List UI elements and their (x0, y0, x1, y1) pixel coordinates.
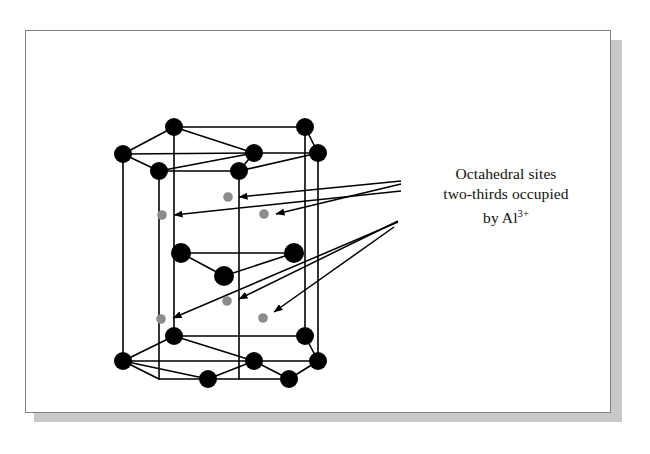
annotation-caption: Octahedral sites two-thirds occupied by … (398, 164, 614, 228)
cell-edge-bottom-center-b (174, 336, 254, 361)
cell-edge-top-center-a (123, 153, 254, 154)
oxygen-atom (171, 243, 191, 263)
oxygen-atom (165, 118, 183, 136)
octahedral-site-atom (259, 209, 269, 219)
oxygen-atom (245, 352, 263, 370)
oxygen-atom (296, 118, 314, 136)
octahedral-site-atom (223, 192, 233, 202)
oxygen-atom (309, 144, 327, 162)
caption-line-3: by Al3+ (398, 204, 614, 228)
octahedral-site-atom (156, 314, 166, 324)
figure-frame: Octahedral sites two-thirds occupied by … (25, 30, 611, 413)
caption-line-2: two-thirds occupied (398, 184, 614, 204)
oxygen-atom (150, 162, 168, 180)
octahedral-site-atom (258, 313, 268, 323)
oxygen-atom (284, 243, 304, 263)
figure-page: Octahedral sites two-thirds occupied by … (0, 0, 650, 454)
charge-superscript: 3+ (518, 208, 529, 219)
caption-line-1: Octahedral sites (398, 164, 614, 184)
cell-edge-top-center-b (174, 127, 254, 153)
caption-line-3-text: by Al (483, 209, 518, 226)
oxygen-atom (114, 352, 132, 370)
oxygen-atom (280, 370, 298, 388)
bond-mid-center-right (224, 253, 294, 276)
leader-to-site-top-center (239, 181, 401, 197)
leader-to-site-upper-right (276, 184, 401, 214)
oxygen-atom (114, 145, 132, 163)
oxygen-atom (230, 162, 248, 180)
leader-to-site-lower-right (274, 227, 394, 312)
oxygen-atom (245, 144, 263, 162)
octahedral-site-atom (222, 296, 232, 306)
oxygen-atom (165, 327, 183, 345)
oxygen-atom (296, 327, 314, 345)
oxygen-atom (199, 370, 217, 388)
oxygen-atom (309, 352, 327, 370)
cell-edge-bottom-center-f (123, 361, 208, 379)
oxygen-atom (214, 266, 234, 286)
octahedral-site-atom (157, 210, 167, 220)
